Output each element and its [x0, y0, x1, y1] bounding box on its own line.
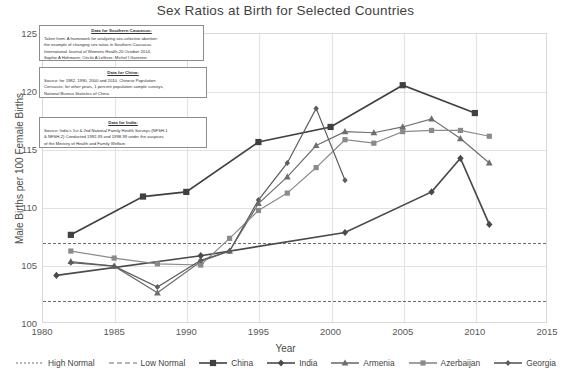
legend-swatch [15, 358, 45, 368]
data-point-marker [210, 360, 216, 366]
x-axis-tick: 2010 [445, 326, 505, 337]
chart-container: Sex Ratios at Birth for Selected Countri… [0, 0, 571, 388]
note-southern-caucasus: Data for Southern Caucasus: Taken from: … [39, 25, 204, 61]
series-line [71, 130, 489, 265]
data-point-marker [429, 128, 434, 133]
legend-item-high-normal[interactable]: High Normal [15, 358, 95, 368]
legend-item-georgia[interactable]: Georgia [493, 358, 556, 368]
legend-label: India [299, 358, 317, 368]
note-title: Data for India: [44, 120, 202, 127]
data-point-marker [256, 208, 261, 213]
legend-label: Armenia [363, 358, 394, 368]
data-point-marker [112, 255, 117, 260]
x-axis-tick: 1980 [12, 326, 72, 337]
series-line [71, 85, 475, 235]
data-point-marker [400, 82, 406, 88]
legend-label: Georgia [526, 358, 556, 368]
legend-swatch [266, 358, 296, 368]
legend-label: China [231, 358, 253, 368]
x-axis-tick: 2000 [301, 326, 361, 337]
data-point-marker [458, 128, 463, 133]
series-china [68, 82, 478, 238]
note-title: Data for Southern Caucasus: [44, 28, 199, 35]
legend-label: Azerbaijan [441, 358, 481, 368]
data-point-marker [487, 134, 492, 139]
data-point-marker [486, 221, 492, 228]
x-axis-tick: 1995 [228, 326, 288, 337]
note-title: Data for China: [44, 70, 202, 77]
data-point-marker [420, 360, 425, 365]
data-point-marker [68, 248, 73, 253]
note-line: of the Ministry of Health and Family Wel… [44, 141, 202, 148]
data-point-marker [371, 141, 376, 146]
data-point-marker [505, 360, 510, 366]
data-point-marker [285, 190, 290, 195]
note-line: National Bureau Statistics of China. [44, 91, 202, 98]
data-point-marker [255, 139, 261, 145]
legend-swatch [108, 358, 138, 368]
data-point-marker [313, 105, 318, 111]
legend-item-armenia[interactable]: Armenia [330, 358, 394, 368]
data-point-marker [155, 284, 160, 290]
legend-item-azerbaijan[interactable]: Azerbaijan [408, 358, 481, 368]
data-point-marker [155, 261, 160, 266]
legend-swatch [198, 358, 228, 368]
data-point-marker [278, 359, 284, 366]
y-axis-tick: 110 [0, 202, 37, 213]
note-line: Sophie A Hohmann; Cécile A Lefèvre; Mich… [44, 55, 199, 62]
legend-item-china[interactable]: China [198, 358, 253, 368]
y-axis-tick: 120 [0, 86, 37, 97]
legend-label: Low Normal [141, 358, 186, 368]
data-point-marker [342, 137, 347, 142]
data-point-marker [472, 110, 478, 116]
series-azerbaijan [68, 128, 492, 268]
chart-title: Sex Ratios at Birth for Selected Countri… [0, 3, 571, 18]
y-axis-tick: 125 [0, 28, 37, 39]
data-point-marker [183, 189, 189, 195]
data-point-marker [428, 115, 435, 121]
legend-label: High Normal [48, 358, 95, 368]
data-point-marker [342, 177, 347, 183]
data-point-marker [457, 135, 464, 141]
data-point-marker [227, 236, 232, 241]
legend-item-india[interactable]: India [266, 358, 317, 368]
x-axis-tick: 2015 [517, 326, 571, 337]
legend-swatch [330, 358, 360, 368]
data-point-marker [53, 272, 59, 279]
series-line [56, 158, 489, 275]
y-axis-label: Male Births per 100 Female Births [14, 54, 25, 284]
y-axis-tick: 105 [0, 260, 37, 271]
x-axis-tick: 1985 [84, 326, 144, 337]
data-point-marker [314, 165, 319, 170]
note-india: Data for India: Source: India's 1st & 2n… [39, 117, 207, 148]
data-point-marker [327, 124, 333, 130]
data-point-marker [68, 232, 74, 238]
x-axis-label: Year [0, 343, 571, 354]
data-point-marker [140, 193, 146, 199]
data-point-marker [154, 289, 161, 295]
data-point-marker [400, 129, 405, 134]
chart-legend: High NormalLow NormalChinaIndiaArmeniaAz… [0, 358, 571, 368]
series-india [53, 155, 492, 279]
x-axis-tick: 2005 [373, 326, 433, 337]
x-axis-tick: 1990 [156, 326, 216, 337]
legend-swatch [493, 358, 523, 368]
data-point-marker [68, 260, 73, 266]
note-china: Data for China: Source: for 1982, 1990, … [39, 67, 207, 98]
legend-item-low-normal[interactable]: Low Normal [108, 358, 186, 368]
data-point-marker [342, 229, 348, 236]
legend-swatch [408, 358, 438, 368]
y-axis-tick: 115 [0, 144, 37, 155]
